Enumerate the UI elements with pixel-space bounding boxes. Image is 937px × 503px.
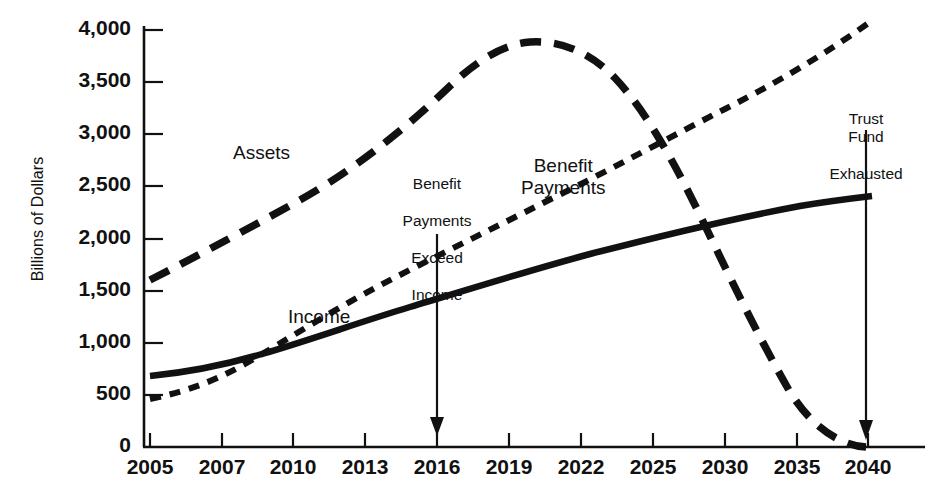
social-security-projection-chart: Billions of Dollars [0, 0, 937, 503]
annotation-benefit-exceed-line1: Benefit [403, 175, 472, 194]
annotation-benefit-exceed-line2: Payments [403, 212, 472, 231]
annotation-trust-fund-exhausted: Trust Fund Exhausted [829, 91, 902, 202]
series-label-benefit-payments: Benefit Payments [521, 155, 605, 199]
x-axis-ticks [150, 433, 868, 447]
x-tick-label-2025: 2025 [630, 455, 677, 479]
annotation-benefit-exceed-line4: Income [403, 286, 472, 305]
axis-lines [143, 26, 925, 447]
annotation-trust-fund-line2: Exhausted [829, 165, 902, 184]
annotation-trust-fund-line1: Trust Fund [829, 110, 902, 147]
series-label-income: Income [288, 306, 350, 328]
series-line-assets [150, 42, 866, 447]
x-tick-label-2016: 2016 [414, 455, 461, 479]
x-tick-label-2010: 2010 [270, 455, 317, 479]
x-tick-label-2007: 2007 [199, 455, 246, 479]
x-tick-label-2040: 2040 [845, 455, 892, 479]
x-tick-label-2019: 2019 [486, 455, 533, 479]
annotation-benefit-exceed-income: Benefit Payments Exceed Income [403, 156, 472, 323]
y-axis-ticks [144, 30, 163, 395]
series-label-benefit-payments-line2: Payments [521, 177, 605, 199]
x-tick-label-2022: 2022 [558, 455, 605, 479]
annotation-benefit-exceed-line3: Exceed [403, 249, 472, 268]
x-tick-label-2005: 2005 [127, 455, 174, 479]
x-tick-label-2035: 2035 [774, 455, 821, 479]
series-label-assets: Assets [233, 142, 290, 164]
x-tick-label-2013: 2013 [342, 455, 389, 479]
series-label-benefit-payments-line1: Benefit [521, 155, 605, 177]
x-tick-label-2030: 2030 [702, 455, 749, 479]
